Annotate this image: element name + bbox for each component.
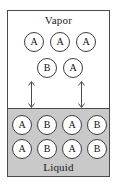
molecule-vapor-a3: A	[76, 32, 96, 52]
phase-transfer-arrow-left-icon	[27, 81, 36, 108]
molecule-vapor-a4: A	[63, 58, 83, 78]
liquid-phase-region: A B A B A B A B Liquid	[8, 108, 109, 176]
molecule-liquid-r2-b1: B	[37, 139, 57, 159]
molecule-vapor-a2: A	[50, 32, 70, 52]
vessel-container: Vapor A A A B A	[7, 10, 110, 177]
molecule-liquid-r2-a1: A	[12, 139, 32, 159]
molecule-liquid-r2-b2: B	[87, 139, 107, 159]
molecule-liquid-r1-b2: B	[87, 115, 107, 135]
molecule-liquid-r1-a2: A	[62, 115, 82, 135]
vapor-phase-label: Vapor	[8, 14, 109, 26]
liquid-phase-label: Liquid	[8, 161, 109, 173]
vapor-phase-region: Vapor A A A B A	[8, 11, 109, 108]
molecule-liquid-r1-a1: A	[12, 115, 32, 135]
molecule-vapor-a1: A	[24, 32, 44, 52]
molecule-liquid-r2-a2: A	[62, 139, 82, 159]
diagram-canvas: Vapor A A A B A	[0, 0, 118, 184]
molecule-vapor-b1: B	[37, 58, 57, 78]
molecule-liquid-r1-b1: B	[37, 115, 57, 135]
phase-transfer-arrow-right-icon	[77, 81, 86, 108]
